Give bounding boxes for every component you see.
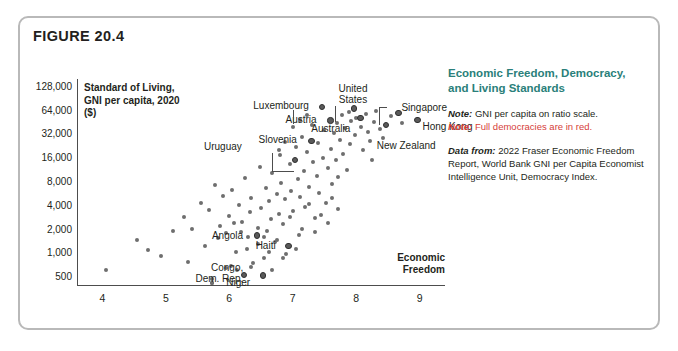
side-panel-heading: Economic Freedom, Democracy, and Living … <box>448 66 644 96</box>
note-text: Full democracies are in red. <box>472 121 592 132</box>
note-prefix: Note: <box>448 108 472 119</box>
note-ratio-scale: Note: GNI per capita on ratio scale. <box>448 107 644 120</box>
figure-label: FIGURE 20.4 <box>33 28 124 44</box>
note-democracies-red: Note: Full democracies are in red. <box>448 120 644 133</box>
data-source-prefix: Data from: <box>448 145 496 156</box>
data-source: Data from: 2022 Fraser Economic Freedom … <box>448 144 644 183</box>
note-text: GNI per capita on ratio scale. <box>472 108 598 119</box>
note-prefix: Note: <box>448 121 472 132</box>
side-panel: Economic Freedom, Democracy, and Living … <box>448 66 644 183</box>
